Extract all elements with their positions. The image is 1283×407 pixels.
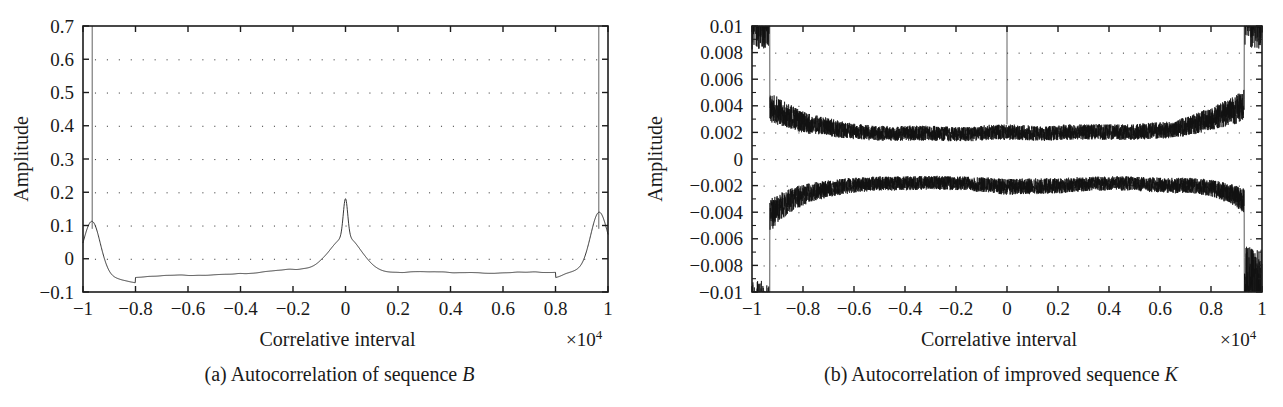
grid-dot xyxy=(393,126,394,127)
y-axis-title: Amplitude xyxy=(10,116,33,202)
grid-dot xyxy=(572,259,573,260)
grid-dot xyxy=(357,59,358,60)
grid-dot xyxy=(961,106,962,107)
chart-grid xyxy=(95,59,597,260)
grid-dot xyxy=(417,59,418,60)
grid-dot xyxy=(1065,159,1066,160)
grid-dot xyxy=(178,192,179,193)
grid-dot xyxy=(868,239,869,240)
grid-dot xyxy=(107,192,108,193)
grid-dot xyxy=(775,265,776,266)
grid-dot xyxy=(489,259,490,260)
grid-dot xyxy=(202,159,203,160)
grid-dot xyxy=(524,226,525,227)
grid-dot xyxy=(453,259,454,260)
grid-dot xyxy=(845,106,846,107)
grid-dot xyxy=(453,59,454,60)
grid-dot xyxy=(961,265,962,266)
grid-dot xyxy=(381,93,382,94)
grid-dot xyxy=(214,93,215,94)
grid-dot xyxy=(937,106,938,107)
grid-dot xyxy=(167,192,168,193)
grid-dot xyxy=(926,106,927,107)
grid-dot xyxy=(381,192,382,193)
grid-dot xyxy=(477,259,478,260)
grid-dot xyxy=(107,59,108,60)
grid-dot xyxy=(903,239,904,240)
grid-dot xyxy=(501,93,502,94)
grid-dot xyxy=(1227,53,1228,54)
grid-dot xyxy=(346,159,347,160)
grid-dot xyxy=(1250,239,1251,240)
grid-dot xyxy=(346,126,347,127)
grid-dot xyxy=(548,126,549,127)
grid-dot xyxy=(1158,239,1159,240)
grid-dot xyxy=(1007,265,1008,266)
grid-dot xyxy=(202,192,203,193)
grid-dot xyxy=(1158,53,1159,54)
grid-dot xyxy=(1227,265,1228,266)
grid-dot xyxy=(322,93,323,94)
grid-dot xyxy=(1123,53,1124,54)
grid-dot xyxy=(1077,79,1078,80)
grid-dot xyxy=(1111,212,1112,213)
grid-dot xyxy=(131,126,132,127)
grid-dot xyxy=(1204,212,1205,213)
grid-dot xyxy=(143,126,144,127)
grid-dot xyxy=(405,93,406,94)
x-tick-label: 0.2 xyxy=(386,298,410,319)
grid-dot xyxy=(961,79,962,80)
grid-dot xyxy=(1204,53,1205,54)
grid-dot xyxy=(178,159,179,160)
grid-dot xyxy=(250,93,251,94)
grid-dot xyxy=(845,79,846,80)
grid-dot xyxy=(1181,159,1182,160)
grid-dot xyxy=(441,126,442,127)
grid-dot xyxy=(1053,53,1054,54)
y-tick-label: −0.008 xyxy=(690,255,743,276)
grid-dot xyxy=(286,59,287,60)
y-tick-label: 0 xyxy=(734,149,744,170)
grid-dot xyxy=(572,93,573,94)
grid-dot xyxy=(572,192,573,193)
y-tick-label: 0.4 xyxy=(50,115,74,136)
grid-dot xyxy=(1077,159,1078,160)
grid-dot xyxy=(214,59,215,60)
x-tick-label: 0.6 xyxy=(1148,298,1172,319)
grid-dot xyxy=(1042,239,1043,240)
grid-dot xyxy=(1088,212,1089,213)
grid-dot xyxy=(1077,265,1078,266)
grid-dot xyxy=(190,59,191,60)
grid-dot xyxy=(548,259,549,260)
grid-dot xyxy=(1250,159,1251,160)
grid-dot xyxy=(489,192,490,193)
grid-dot xyxy=(286,126,287,127)
grid-dot xyxy=(972,79,973,80)
grid-dot xyxy=(1007,159,1008,160)
y-tick-label: 0.1 xyxy=(50,215,74,236)
grid-dot xyxy=(178,126,179,127)
grid-dot xyxy=(1007,212,1008,213)
x-tick-label: 0.8 xyxy=(1199,298,1223,319)
x-tick-label: −0.4 xyxy=(888,298,923,319)
grid-dot xyxy=(856,159,857,160)
grid-dot xyxy=(548,192,549,193)
grid-dot xyxy=(1100,212,1101,213)
grid-dot xyxy=(596,126,597,127)
panel-b: 0.010.0080.0060.0040.0020−0.002−0.004−0.… xyxy=(640,0,1283,407)
x-axis-multiplier-exponent: 4 xyxy=(1250,327,1257,342)
x-axis-title: Correlative interval xyxy=(259,328,415,350)
grid-dot xyxy=(798,159,799,160)
grid-dot xyxy=(274,259,275,260)
grid-dot xyxy=(1169,106,1170,107)
grid-dot xyxy=(1158,159,1159,160)
grid-dot xyxy=(1250,132,1251,133)
grid-dot xyxy=(833,53,834,54)
grid-dot xyxy=(1030,265,1031,266)
grid-dot xyxy=(1088,239,1089,240)
y-tick-label: 0.002 xyxy=(700,122,743,143)
grid-dot xyxy=(787,132,788,133)
grid-dot xyxy=(1169,212,1170,213)
grid-dot xyxy=(369,59,370,60)
grid-dot xyxy=(477,192,478,193)
